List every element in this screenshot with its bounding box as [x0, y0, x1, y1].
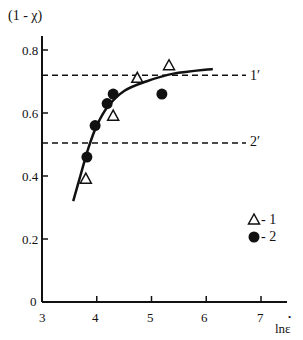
circle-marker	[102, 98, 113, 109]
y-tick-label: 0.4	[22, 169, 38, 185]
reference-label-1: 1′	[250, 68, 260, 84]
x-tick-label: 6	[201, 310, 208, 326]
circle-marker	[108, 89, 119, 100]
reference-label-2: 2′	[250, 134, 260, 150]
triangle-marker	[108, 110, 119, 120]
circle-marker	[156, 89, 167, 100]
triangle-marker	[164, 60, 175, 70]
chart-canvas	[0, 0, 303, 340]
triangle-marker	[132, 72, 143, 82]
legend-circle-icon	[249, 232, 260, 243]
y-tick-label: 0.2	[22, 232, 38, 248]
legend-label-2: - 2	[261, 229, 276, 245]
legend-triangle-icon	[249, 214, 260, 224]
reference-lines	[42, 75, 246, 143]
y-tick-label: 0.6	[22, 106, 38, 122]
x-axis-label: lnε	[275, 321, 291, 337]
legend-markers	[249, 214, 260, 243]
y-tick-label: 0	[30, 294, 37, 310]
legend-label-1: - 1	[261, 212, 276, 228]
x-tick-label: 5	[147, 310, 154, 326]
y-tick-label: 0.8	[22, 43, 38, 59]
fit-curve	[73, 69, 213, 201]
x-tick-label: 3	[39, 310, 46, 326]
x-tick-label: 7	[257, 310, 264, 326]
x-tick-label: 4	[92, 310, 99, 326]
data-points	[80, 60, 174, 183]
circle-marker	[90, 120, 101, 131]
x-axis-label-dot: •	[288, 312, 291, 322]
circle-marker	[81, 152, 92, 163]
y-axis-label: (1 - χ)	[8, 8, 42, 24]
fit-curve-path	[73, 69, 213, 201]
